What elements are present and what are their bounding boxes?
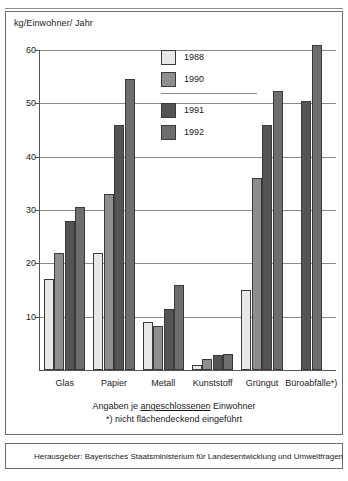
- bar-büroabfälle-1991: [301, 101, 311, 370]
- chart-page: kg/Einwohner/ Jahr 102030405060 GlasPapi…: [0, 0, 348, 481]
- legend-item-1990: 1990: [161, 68, 257, 90]
- note-suffix: Einwohner: [211, 401, 256, 411]
- bar-metall-1988: [143, 322, 153, 370]
- bar-kunststoff-1992: [223, 354, 233, 370]
- bar-metall-1991: [164, 309, 174, 370]
- bar-papier-1991: [114, 125, 124, 370]
- legend-item-1992: 1992: [161, 121, 257, 143]
- bar-glas-1992: [75, 207, 85, 370]
- chart-notes: Angaben je angeschlossenen Einwohner *) …: [5, 400, 343, 426]
- legend-label-1988: 1988: [184, 52, 204, 62]
- bar-kunststoff-1991: [213, 355, 223, 370]
- y-tick-label-50: 50: [16, 98, 36, 108]
- bar-metall-1990: [153, 326, 163, 370]
- x-axis-line: [39, 370, 336, 371]
- legend-swatch-1991: [161, 103, 176, 118]
- note-line-2: *) nicht flächendeckend eingeführt: [5, 413, 343, 426]
- legend-item-1991: 1991: [161, 99, 257, 121]
- bar-grüngut-1992: [273, 91, 283, 370]
- y-tick-label-10: 10: [16, 312, 36, 322]
- bar-papier-1992: [125, 79, 135, 370]
- legend: 1988199019911992: [161, 46, 257, 143]
- bar-glas-1988: [44, 279, 54, 370]
- y-tick-label-30: 30: [16, 205, 36, 215]
- bar-grüngut-1991: [262, 125, 272, 370]
- note-line-1: Angaben je angeschlossenen Einwohner: [5, 400, 343, 413]
- bar-grüngut-1988: [241, 290, 251, 370]
- bar-glas-1991: [65, 221, 75, 370]
- chart-frame: kg/Einwohner/ Jahr 102030405060 GlasPapi…: [5, 11, 343, 435]
- bar-kunststoff-1988: [192, 365, 202, 370]
- category-label-0: Glas: [55, 378, 74, 388]
- category-label-5: Büroabfälle*): [285, 378, 337, 388]
- legend-label-1992: 1992: [184, 127, 204, 137]
- publisher-bar: Herausgeber: Bayerisches Staatsministeri…: [5, 443, 343, 469]
- y-axis-line: [39, 50, 40, 371]
- bar-büroabfälle-1992: [312, 45, 322, 370]
- gridline-40: [39, 157, 336, 158]
- category-label-4: Grüngut: [246, 378, 279, 388]
- legend-label-1990: 1990: [184, 74, 204, 84]
- category-label-3: Kunststoff: [193, 378, 233, 388]
- legend-separator: [161, 93, 257, 94]
- note-prefix: Angaben je: [92, 401, 140, 411]
- bar-glas-1990: [54, 253, 64, 370]
- y-tick-label-40: 40: [16, 152, 36, 162]
- bar-papier-1990: [104, 194, 114, 370]
- legend-swatch-1988: [161, 50, 176, 65]
- category-label-2: Metall: [151, 378, 175, 388]
- y-tick-label-20: 20: [16, 258, 36, 268]
- bar-kunststoff-1990: [202, 359, 212, 370]
- bar-metall-1992: [174, 285, 184, 370]
- publisher-text: Herausgeber: Bayerisches Staatsministeri…: [6, 452, 343, 461]
- legend-swatch-1990: [161, 72, 176, 87]
- legend-label-1991: 1991: [184, 105, 204, 115]
- bar-papier-1988: [93, 253, 103, 370]
- legend-swatch-1992: [161, 125, 176, 140]
- legend-item-1988: 1988: [161, 46, 257, 68]
- note-underlined-term: angeschlossenen: [140, 401, 210, 411]
- category-label-1: Papier: [101, 378, 127, 388]
- top-divider: [5, 8, 343, 9]
- bar-grüngut-1990: [252, 178, 262, 370]
- y-tick-label-60: 60: [16, 45, 36, 55]
